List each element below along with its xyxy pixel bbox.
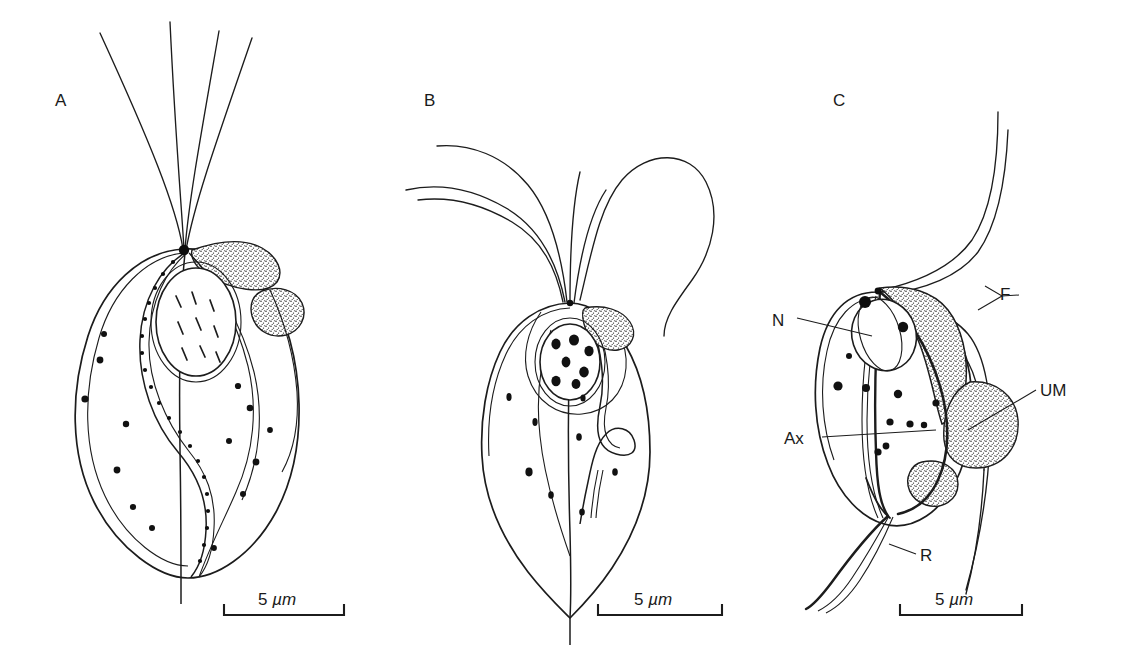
panel-b-letter: B (424, 91, 435, 110)
panel-c-recurrent-flagellum-2 (826, 517, 893, 613)
panel-c-trailing-flagellum-2 (966, 470, 984, 594)
panel-c-recurrent-flagellum (818, 516, 889, 611)
panel-a-scale-bar-group: 5 µm (224, 590, 344, 615)
panel-c-leader-f-2 (978, 296, 1002, 310)
panel-c-scale-bar-group: 5 µm (900, 590, 1022, 615)
panel-c-label-ax: Ax (784, 429, 804, 448)
panel-b: B (406, 91, 722, 645)
panel-c-kinetosome (859, 296, 871, 308)
panel-b-scale-bar-group: 5 µm (598, 590, 722, 615)
panel-c-label-r: R (920, 546, 932, 565)
illustration-svg: A (0, 0, 1128, 659)
panel-c-label-f: F (1000, 285, 1010, 304)
panel-a-kinetosome (179, 245, 189, 255)
panel-a-flagella (100, 22, 252, 250)
panel-c-leader-r (889, 544, 916, 554)
panel-c-nucleolus (898, 322, 908, 332)
panel-a-nucleus (156, 268, 236, 376)
panel-c-um-lobe-lower (944, 382, 1018, 468)
panel-a-um-lobe-lower (251, 288, 304, 335)
panel-c-basal-body (875, 288, 882, 295)
figure-canvas: A (0, 0, 1128, 659)
panel-a-scale-label: 5 µm (258, 590, 296, 609)
panel-c-label-n: N (772, 311, 784, 330)
panel-a: A (55, 22, 344, 615)
panel-b-flagella (406, 146, 606, 303)
panel-c-um-lobe-posterior (908, 461, 958, 506)
panel-c: C (772, 91, 1066, 615)
panel-b-kinetosome (567, 300, 573, 306)
panel-b-scale-label: 5 µm (634, 590, 672, 609)
panel-a-letter: A (55, 91, 67, 110)
panel-c-letter: C (833, 91, 845, 110)
panel-c-scale-label: 5 µm (935, 590, 973, 609)
panel-c-label-um: UM (1040, 381, 1066, 400)
